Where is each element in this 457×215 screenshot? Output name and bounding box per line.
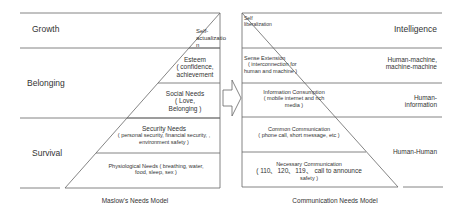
level-text: ( 110、120、119、 call to announce	[244, 167, 374, 174]
level-text: ( Love,	[150, 97, 220, 104]
level-text: actualizatio	[196, 35, 226, 42]
level-text: Esteem	[170, 56, 220, 63]
level-text: achievement	[170, 71, 220, 78]
category-text: machine-machine	[367, 63, 437, 70]
level-esteem: Esteem ( confidence, achievement	[170, 56, 220, 78]
level-text: ( phone call, short message, etc )	[244, 132, 354, 138]
level-information-consumption: Information Consumption ( mobile interne…	[244, 89, 344, 108]
level-common-communication: Common Communication ( phone call, short…	[244, 126, 354, 139]
right-arrow-icon	[223, 80, 241, 116]
left-model-title: Maslow's Needs Model	[60, 197, 210, 204]
category-human-information: Human- information	[377, 94, 437, 109]
level-text: human and machine )	[244, 68, 334, 74]
level-text: liberalization	[244, 22, 284, 28]
category-growth: Growth	[32, 24, 59, 34]
category-human-machine: Human-machine, machine-machine	[367, 56, 437, 71]
level-necessary-communication: Necessary Communication ( 110、120、119、 c…	[244, 161, 374, 181]
right-model-title: Communication Needs Model	[260, 197, 410, 204]
level-sense-extension: Sense Extension ( interconnection for hu…	[244, 55, 334, 74]
category-survival: Survival	[32, 148, 62, 158]
category-human-human: Human-Human	[377, 148, 437, 155]
level-social: Social Needs ( Love, Belonging )	[150, 90, 220, 112]
level-text: environment safety )	[108, 139, 220, 145]
level-text: media )	[244, 102, 344, 108]
level-text: Security Needs	[108, 125, 220, 132]
level-self-actualization: Self- actualizatio n	[196, 28, 226, 49]
category-intelligence: Intelligence	[394, 24, 437, 34]
level-security: Security Needs ( personal security, fina…	[108, 125, 220, 145]
category-belonging: Belonging	[27, 78, 65, 88]
level-text: Belonging )	[150, 105, 220, 112]
category-text: information	[377, 101, 437, 108]
level-text: n	[196, 42, 226, 49]
category-text: Human-	[377, 94, 437, 101]
level-text: ( confidence,	[170, 63, 220, 70]
level-text: Self-	[196, 28, 226, 35]
level-text: Social Needs	[150, 90, 220, 97]
level-text: food, sleep, sex )	[92, 169, 220, 175]
category-text: Human-machine,	[367, 56, 437, 63]
level-physiological: Physiological Needs ( breathing, water, …	[92, 163, 220, 176]
level-text: safety )	[244, 175, 374, 181]
level-self-liberalization: Self liberalization	[244, 16, 284, 28]
level-text: ( personal security, financial security,…	[108, 132, 220, 138]
